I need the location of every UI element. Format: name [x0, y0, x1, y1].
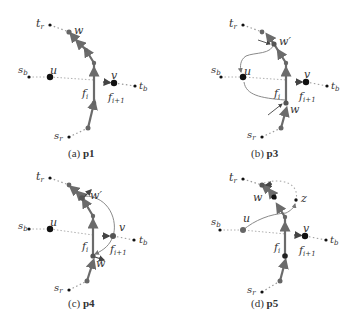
- node-tr: [48, 23, 51, 26]
- label-sr: sr: [247, 284, 256, 297]
- label-tb: tb: [139, 234, 148, 247]
- node-sr: [260, 135, 263, 138]
- route-segment: [72, 188, 78, 193]
- label-tr: tr: [36, 170, 44, 184]
- node-sb: [27, 227, 30, 230]
- label-sb: sb: [18, 220, 28, 233]
- label-fi1: fi+1: [107, 91, 125, 105]
- label-v: v: [119, 221, 126, 234]
- caption-c: (c) p4: [68, 297, 95, 310]
- dotted-path-blue: [29, 77, 94, 80]
- label-tb: tb: [330, 234, 339, 247]
- dotted-path-tr: [50, 25, 69, 32]
- dotted-path-blue: [221, 77, 287, 80]
- dotted-path-sr: [262, 281, 280, 292]
- node-v: [110, 233, 116, 239]
- node-tr: [241, 23, 244, 26]
- curve-to-z: [286, 204, 295, 213]
- label-fi: fi: [81, 240, 88, 254]
- route-segment: [84, 201, 93, 222]
- figure: tr w sb u v tb fi fi+1 sr (a) p1: [0, 0, 357, 327]
- arrow-tr-end: [266, 184, 272, 185]
- label-w: w: [253, 191, 263, 204]
- label-sb: sb: [211, 64, 221, 77]
- route-path: [88, 103, 94, 128]
- pointer-arrow-wp: [258, 40, 270, 44]
- label-sb: sb: [18, 64, 28, 77]
- node-tb: [133, 84, 136, 87]
- label-v: v: [304, 68, 311, 81]
- dotted-path-tr: [243, 25, 262, 32]
- label-u: u: [50, 64, 57, 77]
- node: [84, 48, 88, 52]
- node: [283, 215, 287, 219]
- node-sr: [67, 135, 70, 138]
- node: [259, 182, 264, 187]
- dotted-path-sr: [69, 128, 88, 137]
- label-tb: tb: [331, 80, 340, 93]
- label-sr: sr: [54, 130, 63, 143]
- node-black: [271, 194, 276, 199]
- dotted-path-blue: [29, 229, 93, 235]
- route-segment: [87, 262, 93, 281]
- node-tb: [325, 84, 328, 87]
- node-w: [66, 29, 71, 34]
- route-segment: [86, 50, 94, 70]
- node-tr: [241, 177, 244, 180]
- route-segment: [279, 52, 286, 70]
- dotted-path-tb: [306, 82, 327, 86]
- node: [92, 61, 96, 65]
- dotted-path-tb: [305, 236, 326, 240]
- node-tb: [132, 238, 135, 241]
- label-fi: fi: [273, 87, 280, 101]
- label-fi: fi: [81, 87, 88, 101]
- label-fi1: fi+1: [109, 243, 127, 257]
- label-tr: tr: [229, 171, 237, 185]
- caption-a: (a) p1: [68, 147, 95, 160]
- node: [284, 61, 288, 65]
- dotted-path-sr: [69, 281, 87, 290]
- route-segment: [281, 110, 286, 128]
- panel-a: tr w sb u v tb fi fi+1 sr (a) p1: [18, 17, 148, 160]
- label-w: w: [96, 257, 106, 270]
- route-segment: [264, 186, 270, 191]
- panel-b: tr w′ sb u v tb fi fi+1 w sr (b) p3: [211, 17, 340, 160]
- dotted-path-tr: [50, 178, 69, 185]
- node-wp: [271, 41, 276, 46]
- label-wp: w′: [279, 35, 291, 48]
- node-sb: [27, 75, 30, 78]
- dotted-path-tb: [113, 236, 134, 240]
- dotted-path-tr: [243, 179, 262, 185]
- dotted-path-sr: [262, 128, 281, 137]
- label-tr: tr: [36, 17, 44, 31]
- node-tr: [48, 176, 51, 179]
- panel-d: tr w z sb u v tb fi fi+1 sr (d) p5: [211, 171, 339, 310]
- node: [260, 30, 265, 35]
- node-sr: [67, 288, 70, 291]
- label-tb: tb: [139, 80, 148, 93]
- node: [92, 101, 97, 106]
- label-w: w: [290, 103, 300, 116]
- label-fi1: fi+1: [298, 90, 316, 104]
- label-w: w: [74, 24, 84, 37]
- label-sb: sb: [211, 216, 221, 229]
- arrow-to-v: [294, 235, 301, 236]
- node-z: [294, 198, 297, 201]
- label-u: u: [50, 216, 57, 229]
- dotted-path-blue: [220, 230, 286, 234]
- node: [67, 183, 72, 188]
- route-segment: [280, 262, 285, 281]
- label-wp: w′: [90, 189, 102, 202]
- label-u: u: [244, 65, 251, 78]
- node: [279, 126, 284, 131]
- node-wp: [79, 195, 85, 201]
- panel-c: tr w′ sb u v tb fi fi+1 w sr (c) p4: [18, 170, 148, 310]
- caption-b: (b) p3: [251, 147, 279, 160]
- label-sr: sr: [54, 282, 63, 295]
- node-w: [90, 253, 95, 258]
- label-tr: tr: [229, 17, 237, 31]
- node-tb: [324, 238, 327, 241]
- label-fi: fi: [273, 241, 280, 255]
- arrow-to-v: [103, 82, 110, 83]
- node: [86, 126, 91, 131]
